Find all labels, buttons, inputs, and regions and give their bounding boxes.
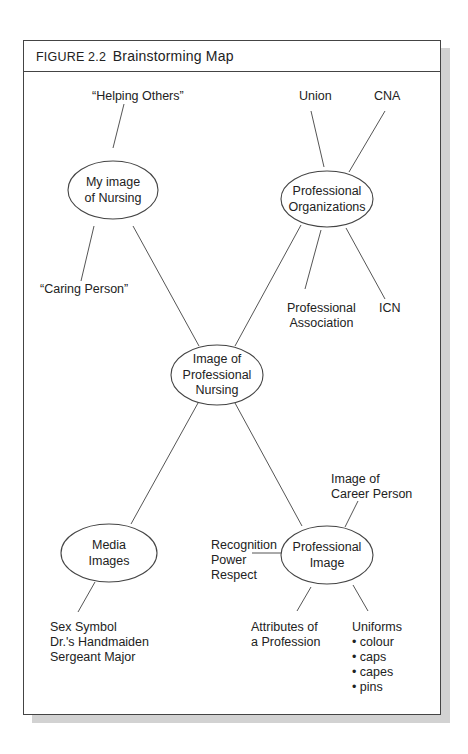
leaf-uniforms: Uniforms • colour • caps • capes • pins — [352, 620, 402, 695]
leaf-attributes-of-profession: Attributes of a Profession — [251, 620, 320, 650]
node-line: Images — [62, 554, 156, 570]
leaf-recognition: Recognition Power Respect — [211, 538, 277, 583]
node-image-of-professional-nursing: Image of Professional Nursing — [170, 352, 264, 399]
node-line: Professional — [280, 184, 374, 200]
leaf-line: a Profession — [251, 635, 320, 650]
node-professional-organizations: Professional Organizations — [280, 184, 374, 215]
leaf-caring-person: “Caring Person” — [40, 282, 128, 297]
uniform-item: • pins — [352, 680, 402, 695]
node-line: Professional — [170, 368, 264, 384]
node-line: Image of — [170, 352, 264, 368]
leaf-line: Image of — [331, 472, 412, 487]
node-line: of Nursing — [68, 191, 158, 207]
leaf-media-list: Sex Symbol Dr.'s Handmaiden Sergeant Maj… — [50, 620, 149, 665]
node-media-images: Media Images — [62, 538, 156, 569]
node-line: Professional — [280, 540, 374, 556]
leaf-line: Sergeant Major — [50, 650, 149, 665]
leaf-cna: CNA — [374, 89, 400, 104]
node-line: Nursing — [170, 383, 264, 399]
node-line: Organizations — [280, 200, 374, 216]
leaf-line: Attributes of — [251, 620, 320, 635]
leaf-line: Respect — [211, 568, 277, 583]
node-line: My image — [68, 175, 158, 191]
leaf-line: Dr.'s Handmaiden — [50, 635, 149, 650]
leaf-icn: ICN — [379, 301, 401, 316]
node-line: Image — [280, 556, 374, 572]
leaf-line: Uniforms — [352, 620, 402, 635]
leaf-line: Power — [211, 553, 277, 568]
uniform-item: • capes — [352, 665, 402, 680]
leaf-union: Union — [299, 89, 332, 104]
leaf-helping-others: “Helping Others” — [92, 89, 184, 104]
leaf-professional-association: Professional Association — [287, 301, 356, 331]
leaf-line: Professional — [287, 301, 356, 316]
node-professional-image: Professional Image — [280, 540, 374, 571]
leaf-career-person: Image of Career Person — [331, 472, 412, 502]
uniform-item: • colour — [352, 635, 402, 650]
leaf-line: Association — [287, 316, 356, 331]
leaf-line: Recognition — [211, 538, 277, 553]
node-line: Media — [62, 538, 156, 554]
leaf-line: Sex Symbol — [50, 620, 149, 635]
node-my-image-of-nursing: My image of Nursing — [68, 175, 158, 206]
leaf-line: Career Person — [331, 487, 412, 502]
uniform-item: • caps — [352, 650, 402, 665]
